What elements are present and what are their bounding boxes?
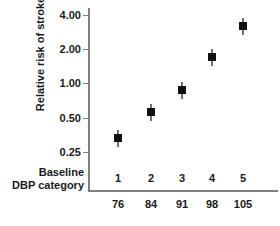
y-axis-line [88, 8, 90, 191]
y-tick-label-0-50: 0.50 [39, 112, 81, 124]
y-tick-label-4: 4.00 [39, 9, 81, 21]
x-category-4: 4 [200, 172, 224, 184]
x-axis-title-line1: Baseline [2, 166, 84, 179]
x-axis-line [88, 190, 278, 192]
x-dbp-value-3: 91 [167, 198, 197, 210]
x-axis-title: Baseline DBP category [2, 166, 84, 191]
data-point-3 [178, 86, 186, 94]
x-axis-title-line2: DBP category [2, 179, 84, 192]
y-tick-label-0-25: 0.25 [39, 146, 81, 158]
x-dbp-value-2: 84 [136, 198, 166, 210]
x-category-3: 3 [170, 172, 194, 184]
cut-off-caption [70, 218, 270, 224]
x-dbp-value-5: 105 [228, 198, 258, 210]
data-point-4 [208, 53, 216, 61]
chart-figure: Relative risk of stroke 4.00 2.00 1.00 0… [0, 0, 280, 226]
y-tick-label-1: 1.00 [39, 77, 81, 89]
data-point-1 [114, 134, 122, 142]
x-category-1: 1 [106, 172, 130, 184]
x-category-2: 2 [139, 172, 163, 184]
data-point-5 [239, 22, 247, 30]
x-dbp-value-4: 98 [197, 198, 227, 210]
data-point-2 [147, 108, 155, 116]
y-tick-label-group: 4.00 2.00 1.00 0.50 0.25 [36, 0, 81, 226]
x-dbp-value-1: 76 [103, 198, 133, 210]
x-category-5: 5 [231, 172, 255, 184]
y-tick-label-2: 2.00 [39, 43, 81, 55]
